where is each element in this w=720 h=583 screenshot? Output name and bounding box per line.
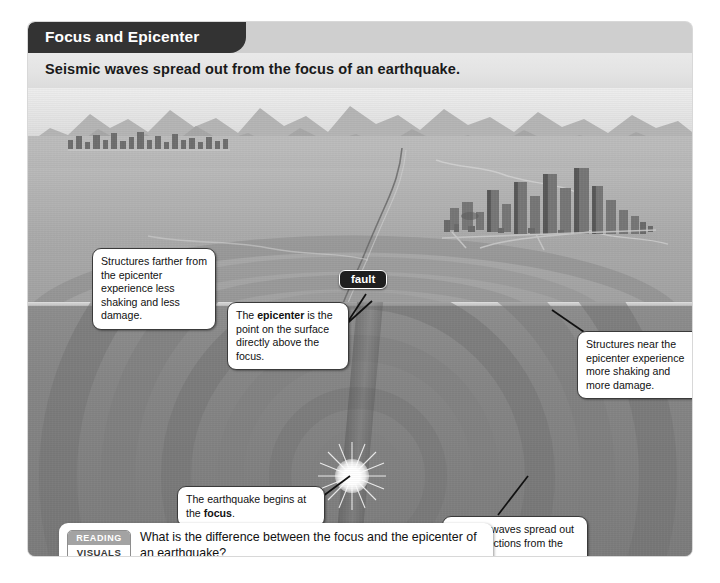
callout-focus-term: focus	[204, 507, 232, 519]
illustration-stage: Structures farther from the epicenter ex…	[28, 88, 692, 556]
callout-epicenter: The epicenter is the point on the surfac…	[227, 302, 349, 370]
reading-visuals-question: What is the difference between the focus…	[140, 530, 484, 556]
subtitle-bar: Seismic waves spread out from the focus …	[28, 53, 692, 88]
figure-panel: Structures farther from the epicenter ex…	[28, 22, 692, 556]
callout-far-text: Structures farther from the epicenter ex…	[101, 255, 207, 321]
callout-structures-near: Structures near the epicenter experience…	[577, 331, 692, 399]
figure-page: Structures farther from the epicenter ex…	[0, 0, 720, 583]
fault-label: fault	[339, 270, 387, 289]
callout-epicenter-term: epicenter	[257, 309, 304, 321]
reading-visuals-badge: READING VISUALS	[67, 530, 131, 556]
figure-title: Focus and Epicenter	[45, 28, 199, 46]
callout-epicenter-text-before: The	[236, 309, 257, 321]
city-near-epicenter	[440, 160, 660, 252]
header-tab: Focus and Epicenter	[28, 22, 246, 53]
callout-focus: The earthquake begins at the focus.	[177, 486, 325, 527]
reading-visuals-bar: READING VISUALS What is the difference b…	[59, 523, 493, 556]
subtitle: Seismic waves spread out from the focus …	[45, 61, 460, 77]
reading-visuals-badge-line2: VISUALS	[68, 545, 130, 556]
callout-focus-text-after: .	[232, 507, 235, 519]
town-far	[64, 126, 234, 156]
callout-near-text: Structures near the epicenter experience…	[586, 338, 684, 391]
callout-structures-far: Structures farther from the epicenter ex…	[92, 248, 216, 330]
reading-visuals-badge-line1: READING	[68, 531, 130, 545]
